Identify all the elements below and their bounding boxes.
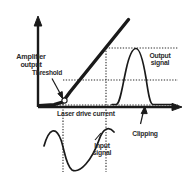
axes xyxy=(34,16,182,111)
diagram-canvas xyxy=(0,0,186,174)
transfer-curve xyxy=(39,20,129,106)
clipping-leader-arrow xyxy=(141,107,148,125)
input-signal-wave xyxy=(44,129,114,171)
output-signal-wave xyxy=(112,49,173,105)
threshold-leader-arrow xyxy=(52,79,63,99)
laser-amplifier-diagram: Amplifier output Threshold Laser drive c… xyxy=(0,0,186,174)
y-axis-arrowhead xyxy=(34,16,42,26)
reference-lines xyxy=(40,48,178,172)
